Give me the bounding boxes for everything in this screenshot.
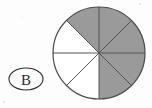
scan-speck	[22, 17, 23, 18]
figure-label-group: B	[9, 68, 43, 90]
fraction-circle-figure: B	[0, 0, 152, 108]
scan-speck	[3, 101, 5, 103]
figure-label-letter: B	[21, 72, 31, 88]
figure-page: B	[0, 0, 152, 108]
scan-speck	[139, 3, 141, 5]
